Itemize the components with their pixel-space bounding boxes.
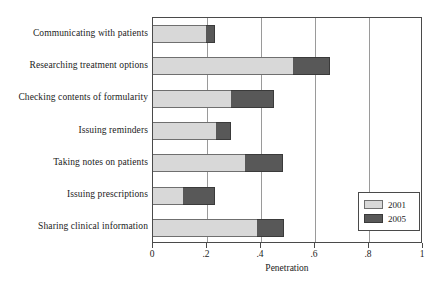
bar-segment-2001 (153, 219, 257, 237)
bar-segment-2005 (183, 187, 215, 205)
legend-label-2001: 2001 (388, 200, 406, 210)
bar-row (153, 57, 330, 75)
category-label: Researching treatment options (30, 60, 148, 71)
x-axis-title: Penetration (152, 263, 422, 274)
x-tick-mark (152, 243, 153, 248)
x-tick-label: 0 (137, 249, 167, 260)
bar-row (153, 25, 215, 43)
category-label: Issuing prescriptions (67, 189, 148, 200)
legend-item-2005: 2005 (364, 212, 414, 225)
bar-row (153, 90, 274, 108)
category-label: Communicating with patients (33, 28, 148, 39)
chart-legend: 2001 2005 (358, 192, 420, 231)
bar-segment-2005 (257, 219, 284, 237)
bar-segment-2001 (153, 187, 183, 205)
bar-segment-2005 (216, 122, 231, 140)
x-tick-mark (368, 243, 369, 248)
bar-row (153, 187, 215, 205)
bar-segment-2005 (231, 90, 274, 108)
bar-row (153, 122, 231, 140)
bar-segment-2001 (153, 25, 206, 43)
bar-segment-2005 (245, 154, 283, 172)
x-tick-label: .2 (191, 249, 221, 260)
x-tick-label: .4 (245, 249, 275, 260)
category-label: Taking notes on patients (53, 157, 148, 168)
x-tick-mark (206, 243, 207, 248)
bar-segment-2005 (206, 25, 215, 43)
legend-label-2005: 2005 (388, 214, 406, 224)
x-tick-mark (260, 243, 261, 248)
x-tick-label: .8 (353, 249, 383, 260)
legend-item-2001: 2001 (364, 198, 414, 211)
x-tick-mark (422, 243, 423, 248)
bar-segment-2001 (153, 154, 245, 172)
dark-gray-swatch-icon (364, 214, 383, 223)
bar-segment-2001 (153, 122, 216, 140)
category-label: Checking contents of formularity (18, 92, 148, 103)
bar-segment-2005 (293, 57, 329, 75)
x-tick-label: 1 (407, 249, 437, 260)
x-tick-mark (314, 243, 315, 248)
bar-row (153, 154, 283, 172)
category-label: Issuing reminders (78, 125, 148, 136)
bar-row (153, 219, 284, 237)
x-tick-label: .6 (299, 249, 329, 260)
category-label: Sharing clinical information (38, 221, 148, 232)
light-gray-swatch-icon (364, 200, 383, 209)
bar-segment-2001 (153, 57, 293, 75)
bar-chart-figure: Communicating with patientsResearching t… (0, 0, 440, 286)
bar-segment-2001 (153, 90, 231, 108)
